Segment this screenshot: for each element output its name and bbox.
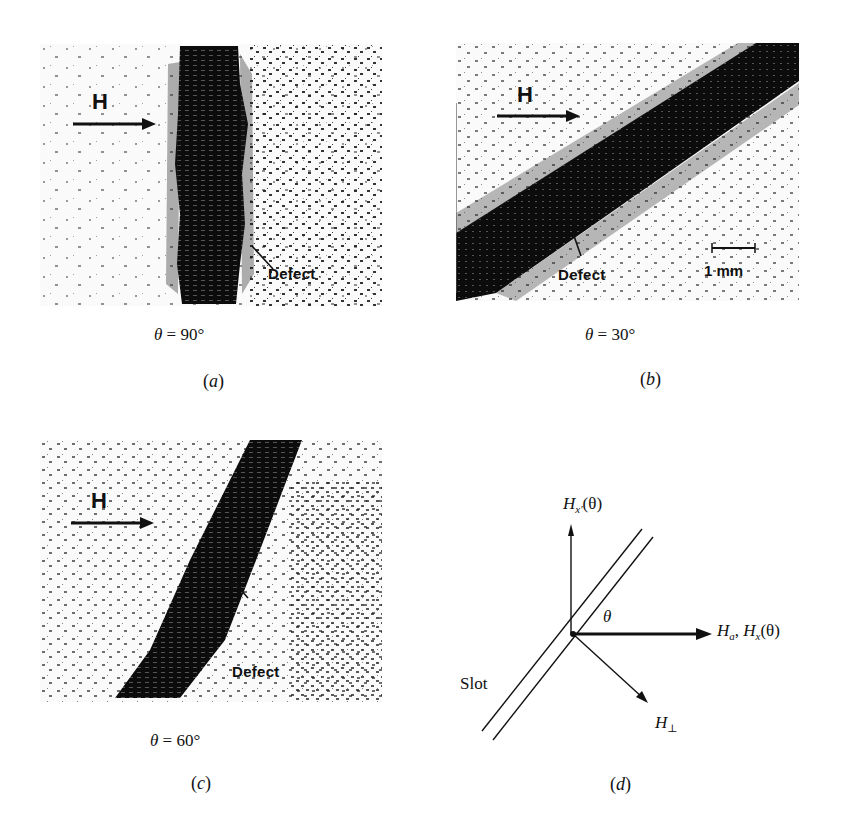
perpendicular-field-arrow <box>573 634 643 698</box>
subfigure-tag-d: (d) <box>610 774 631 795</box>
panel-b-particle-pattern <box>456 43 799 301</box>
defect-label-a: Defect <box>268 265 316 282</box>
slot-line-2 <box>493 537 653 740</box>
theta-value: = 90° <box>167 325 205 344</box>
theta-symbol: θ <box>150 731 158 750</box>
defect-label-c: Defect <box>232 663 280 680</box>
angle-label-theta: θ <box>603 607 611 627</box>
theta-value: = 30° <box>598 325 636 344</box>
subfigure-tag-b: (b) <box>640 369 661 390</box>
angle-caption-b: θ = 30° <box>585 325 635 345</box>
panel-a-photo <box>40 44 382 306</box>
panel-b-photo <box>456 43 799 301</box>
slot-line-1 <box>482 529 642 731</box>
field-arrow-b <box>494 108 586 124</box>
panel-c-particle-pattern <box>40 440 382 702</box>
field-label-c: H <box>91 488 107 514</box>
field-vector-diagram <box>440 490 840 790</box>
horizontal-axis-label: Ha, Hx(θ) <box>717 621 780 642</box>
theta-value: = 60° <box>163 731 201 750</box>
perpendicular-field-label: H⊥ <box>655 713 678 735</box>
field-arrow-a <box>70 116 160 132</box>
theta-symbol: θ <box>154 325 162 344</box>
theta-symbol: θ <box>585 325 593 344</box>
subfigure-tag-c: (c) <box>191 773 211 794</box>
panel-a-particle-pattern <box>40 44 382 306</box>
slot-label: Slot <box>460 674 487 694</box>
subfigure-tag-a: (a) <box>203 371 224 392</box>
vertical-axis-label: Hx′(θ) <box>563 494 602 515</box>
angle-caption-c: θ = 60° <box>150 731 200 751</box>
scale-bar-label: 1 mm <box>704 262 743 279</box>
defect-label-b: Defect <box>558 266 606 283</box>
field-label-b: H <box>517 82 533 108</box>
field-label-a: H <box>92 89 108 115</box>
panel-c-photo <box>40 440 382 702</box>
field-arrow-c <box>68 515 160 531</box>
angle-caption-a: θ = 90° <box>154 325 204 345</box>
